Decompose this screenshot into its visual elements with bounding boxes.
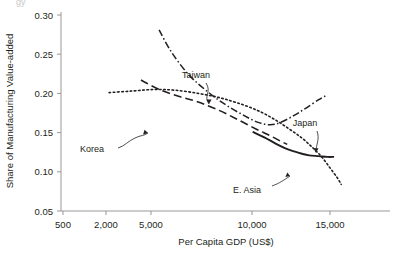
chart-plot-area: gy 0.30 0.25 0.20 0.15 0.10 0.05 500 [0,0,397,260]
annotation-leaders [118,83,319,186]
y-tick-label: 0.15 [35,127,54,138]
x-tick-label: 2,000 [94,219,118,230]
x-axis-title: Per Capita GDP (US$) [178,236,273,247]
japan-leader-line [316,131,318,151]
series-label-taiwan: Taiwan [182,70,210,80]
series-line-japan [253,132,334,157]
x-tick-label: 10,000 [237,219,266,230]
y-tick-label: 0.30 [35,10,54,21]
e-asia-leader-line [272,176,290,186]
chart-figure: gy 0.30 0.25 0.20 0.15 0.10 0.05 500 [0,0,397,260]
y-tick-label: 0.20 [35,88,54,99]
series-label-korea: Korea [80,144,104,154]
x-tick-label: 500 [55,219,71,230]
y-tick-label: 0.25 [35,49,54,60]
series-label-e-asia: E. Asia [233,185,261,195]
y-tick-label: 0.05 [35,206,54,217]
series-group [109,30,341,184]
annotation-labels: Taiwan Korea E. Asia Japan [80,70,317,195]
x-tick-label: 5,000 [139,219,163,230]
x-tick-label: 15,000 [315,219,344,230]
axes-group [61,12,390,211]
clipped-top-text: gy [16,0,26,7]
y-tick-label: 0.10 [35,166,54,177]
taiwan-leader-arrow [206,99,211,104]
korea-leader-line [118,133,148,148]
series-label-japan: Japan [293,118,318,128]
y-axis-ticks: 0.30 0.25 0.20 0.15 0.10 0.05 [35,10,62,217]
y-axis-title: Share of Manufacturing Value-added [4,34,15,189]
x-axis-ticks: 500 2,000 5,000 10,000 15,000 [55,211,344,230]
